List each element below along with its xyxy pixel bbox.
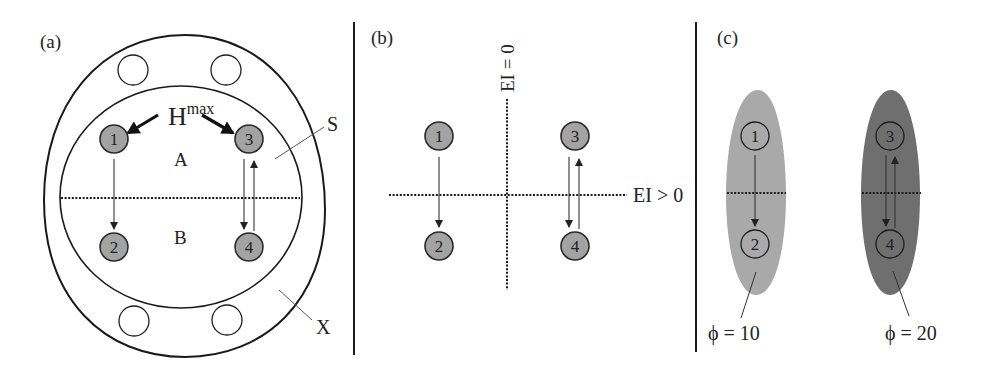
ring-hole: [211, 55, 241, 85]
ring-hole: [212, 305, 242, 335]
hmax-arrow-right: [202, 115, 233, 133]
caption-phi-10: ϕ = 10: [708, 322, 760, 345]
node-2: 2: [425, 232, 453, 260]
callout-x-label: X: [316, 316, 331, 338]
panel-c: (c) 1 2 ϕ = 10 3 4 ϕ = 20: [708, 27, 937, 345]
panel-c-label: (c): [717, 27, 738, 49]
svg-text:1: 1: [751, 127, 760, 146]
node-4: 4: [235, 233, 263, 261]
panel-a-label: (a): [40, 31, 61, 53]
axis-ei-positive-label: EI > 0: [633, 184, 683, 206]
node-4: 4: [561, 232, 589, 260]
svg-text:3: 3: [245, 130, 254, 149]
panel-b: (b) EI = 0 EI > 0 1 2 3 4: [371, 27, 683, 290]
axis-ei-zero-label: EI = 0: [497, 44, 518, 92]
callout-s-label: S: [327, 113, 338, 135]
region-a-label: A: [174, 149, 188, 170]
panel-b-label: (b): [371, 27, 393, 49]
svg-text:4: 4: [245, 238, 254, 257]
ring-hole: [118, 55, 148, 85]
svg-text:1: 1: [110, 130, 119, 149]
svg-text:1: 1: [435, 127, 444, 146]
node-1: 1: [100, 125, 128, 153]
hmax-arrow-left: [128, 115, 158, 133]
figure-canvas: (a) Hmax 1 2 3 4: [0, 0, 998, 373]
node-1: 1: [425, 122, 453, 150]
panel-a: (a) Hmax 1 2 3 4: [40, 31, 338, 357]
svg-text:2: 2: [110, 238, 119, 257]
caption-phi-20: ϕ = 20: [885, 322, 937, 345]
ring-hole: [119, 306, 149, 336]
node-3: 3: [235, 125, 263, 153]
svg-text:4: 4: [571, 237, 580, 256]
svg-text:2: 2: [751, 235, 760, 254]
svg-text:4: 4: [886, 235, 895, 254]
callout-x-line: [279, 290, 312, 320]
svg-text:3: 3: [571, 127, 580, 146]
node-2: 2: [100, 233, 128, 261]
node-3: 3: [561, 122, 589, 150]
svg-text:3: 3: [886, 127, 895, 146]
region-b-label: B: [174, 227, 187, 248]
svg-text:2: 2: [435, 237, 444, 256]
hmax-label: Hmax: [168, 100, 214, 131]
